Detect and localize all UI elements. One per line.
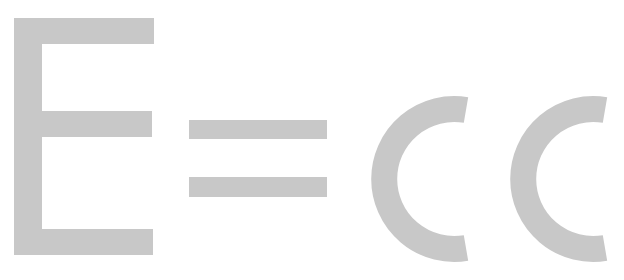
equals-sign: [189, 120, 327, 197]
formula-graphic: [0, 0, 624, 280]
letter-e: [14, 18, 154, 255]
letter-c-1: [384, 109, 466, 249]
letter-c-2: [523, 109, 605, 249]
